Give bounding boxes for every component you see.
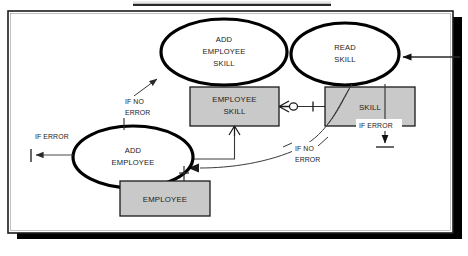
top-bar-highlight [133, 1, 331, 4]
process-add-employee-skill-line-1: EMPLOYEE [203, 47, 246, 56]
flow-label-if-error-left-line-0: IF ERROR [35, 133, 69, 140]
process-read-skill: READ SKILL [291, 23, 399, 85]
flow-label-if-error-left: IF ERROR [32, 130, 76, 142]
diagram-page: EMPLOYEE SKILL SKILL ADD EMPLOYEE SKILL [0, 0, 468, 256]
flow-label-if-no-error-left-line-1: ERROR [125, 109, 150, 116]
flow-label-if-error-skill: IF ERROR [356, 119, 402, 131]
flow-label-if-no-error-left: IF NO ERROR [115, 96, 150, 118]
process-flow-diagram: EMPLOYEE SKILL SKILL ADD EMPLOYEE SKILL [0, 0, 468, 256]
entity-employee: EMPLOYEE [120, 181, 210, 216]
flow-label-if-no-error-mid: IF NO ERROR [292, 142, 328, 164]
process-add-employee-skill-line-2: SKILL [213, 59, 234, 68]
flow-label-if-no-error-mid-line-0: IF NO [295, 145, 314, 152]
process-add-employee-skill-line-0: ADD [216, 35, 233, 44]
process-read-skill-line-1: SKILL [334, 55, 355, 64]
entity-employee-skill-line-1: SKILL [223, 107, 246, 116]
process-add-employee-skill: ADD EMPLOYEE SKILL [161, 19, 287, 85]
entity-employee-skill-line-0: EMPLOYEE [212, 95, 257, 104]
process-add-employee-line-0: ADD [125, 146, 142, 155]
entity-employee-skill: EMPLOYEE SKILL [190, 87, 279, 126]
process-add-employee: ADD EMPLOYEE [73, 126, 193, 188]
flow-label-if-no-error-left-line-0: IF NO [125, 98, 144, 105]
process-add-employee-line-1: EMPLOYEE [112, 158, 155, 167]
flow-label-if-no-error-mid-line-1: ERROR [295, 156, 320, 163]
entity-skill-line-0: SKILL [359, 103, 382, 112]
entity-employee-line-0: EMPLOYEE [143, 195, 188, 204]
flow-label-if-error-skill-line-0: IF ERROR [359, 122, 393, 129]
optional-circle [290, 103, 298, 110]
process-read-skill-line-0: READ [334, 43, 356, 52]
top-bar [133, 4, 331, 7]
